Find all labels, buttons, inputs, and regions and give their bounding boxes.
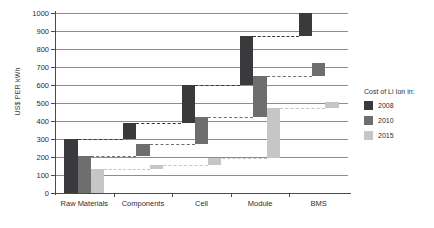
gridline — [55, 103, 348, 104]
y-tick-label: 900 — [36, 27, 49, 36]
gridline — [55, 157, 348, 158]
connector-line — [253, 36, 298, 37]
plot-area: 01002003004005006007008009001000 — [55, 13, 348, 193]
gridline — [55, 67, 348, 68]
legend-item-label: 2008 — [378, 102, 394, 109]
y-tick-label: 0 — [45, 189, 49, 198]
y-tick-mark — [51, 13, 56, 14]
bar-segment — [91, 169, 104, 193]
x-axis-category-label: Module — [248, 199, 273, 208]
x-axis-line — [55, 193, 351, 194]
x-axis-category-label: Cell — [195, 199, 208, 208]
x-tick-mark — [114, 193, 115, 197]
y-tick-mark — [51, 193, 56, 194]
y-tick-mark — [51, 157, 56, 158]
bar-segment — [195, 117, 208, 144]
x-axis-category-label: Raw Materials — [61, 199, 109, 208]
bar-segment — [64, 139, 77, 193]
x-tick-mark — [172, 193, 173, 197]
y-axis-title: US$ PER kWh — [14, 47, 21, 137]
y-tick-label: 800 — [36, 45, 49, 54]
y-tick-mark — [51, 49, 56, 50]
y-tick-mark — [51, 139, 56, 140]
y-tick-mark — [51, 103, 56, 104]
legend-title: Cost of Li Ion in: — [364, 88, 415, 95]
bar-segment — [312, 63, 325, 76]
y-tick-label: 600 — [36, 81, 49, 90]
y-tick-label: 400 — [36, 117, 49, 126]
connector-line — [150, 144, 195, 145]
y-tick-mark — [51, 67, 56, 68]
bar-segment — [325, 102, 338, 108]
chart-legend: Cost of Li Ion in: 200820102015 — [364, 88, 415, 146]
gridline — [55, 49, 348, 50]
connector-line — [267, 76, 312, 77]
legend-item-label: 2015 — [378, 132, 394, 139]
waterfall-chart: US$ PER kWh 0100200300400500600700800900… — [0, 0, 434, 228]
bar-segment — [208, 158, 221, 165]
x-axis-category-label: BMS — [311, 199, 327, 208]
bar-segment — [182, 85, 195, 123]
connector-line — [280, 108, 325, 109]
x-tick-mark — [289, 193, 290, 197]
legend-item-2008[interactable]: 2008 — [364, 101, 415, 110]
connector-line — [208, 117, 253, 118]
legend-item-2015[interactable]: 2015 — [364, 131, 415, 140]
connector-line — [195, 85, 240, 86]
legend-swatch-icon — [364, 131, 373, 140]
bar-segment — [78, 156, 91, 193]
x-axis-category-label: Components — [122, 199, 165, 208]
y-tick-mark — [51, 31, 56, 32]
connector-line — [222, 158, 267, 159]
legend-item-label: 2010 — [378, 117, 394, 124]
bar-segment — [299, 13, 312, 36]
y-tick-label: 300 — [36, 135, 49, 144]
connector-line — [136, 123, 181, 124]
bar-segment — [150, 165, 163, 169]
y-tick-mark — [51, 175, 56, 176]
legend-item-2010[interactable]: 2010 — [364, 116, 415, 125]
y-tick-mark — [51, 85, 56, 86]
bar-segment — [253, 76, 266, 117]
bar-segment — [136, 144, 149, 156]
connector-line — [163, 165, 208, 166]
y-tick-label: 500 — [36, 99, 49, 108]
connector-line — [78, 139, 123, 140]
y-tick-label: 1000 — [32, 9, 49, 18]
x-tick-mark — [231, 193, 232, 197]
connector-line — [91, 156, 136, 157]
legend-swatch-icon — [364, 116, 373, 125]
bar-segment — [240, 36, 253, 85]
y-tick-mark — [51, 121, 56, 122]
bar-segment — [267, 108, 280, 158]
y-tick-label: 700 — [36, 63, 49, 72]
y-tick-label: 100 — [36, 171, 49, 180]
legend-swatch-icon — [364, 101, 373, 110]
y-tick-label: 200 — [36, 153, 49, 162]
bar-segment — [123, 123, 136, 139]
connector-line — [104, 169, 149, 170]
